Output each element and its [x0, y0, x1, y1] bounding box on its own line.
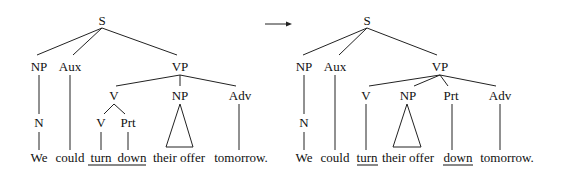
word-their-offer: their offer: [382, 150, 435, 165]
np-triangle: [393, 104, 421, 147]
node-VP: VP: [432, 59, 449, 74]
node-NP-subject: NP: [296, 59, 313, 74]
branch-VP-Adv: [180, 75, 236, 86]
branch-S-VP: [102, 28, 177, 55]
word-down: down: [118, 150, 147, 165]
node-N: N: [34, 115, 44, 130]
node-NP-object: NP: [172, 88, 189, 103]
node-Prt: Prt: [443, 88, 459, 103]
branch-VP-Adv: [440, 75, 496, 86]
node-Aux: Aux: [59, 59, 82, 74]
node-NP-object: NP: [400, 88, 417, 103]
word-tomorrow: tomorrow.: [214, 150, 268, 165]
branch-S-Aux: [339, 28, 367, 55]
node-NP-subject: NP: [31, 59, 48, 74]
word-could: could: [321, 150, 350, 165]
word-we: We: [31, 150, 48, 165]
tree-before: S NP Aux VP V NP Adv N V Prt We could tu…: [31, 13, 268, 165]
branch-V-V: [104, 104, 114, 114]
word-down: down: [444, 150, 473, 165]
node-V-complex: V: [109, 88, 119, 103]
node-Aux: Aux: [324, 59, 347, 74]
node-Adv: Adv: [489, 88, 512, 103]
node-Adv: Adv: [229, 88, 252, 103]
node-S: S: [98, 13, 105, 28]
branch-VP-V: [116, 75, 180, 86]
word-we: We: [296, 150, 313, 165]
word-tomorrow: tomorrow.: [480, 150, 534, 165]
transformation-arrow: [265, 22, 292, 27]
node-Prt: Prt: [120, 115, 136, 130]
branch-V-Prt: [114, 104, 125, 114]
node-V: V: [96, 115, 106, 130]
node-N: N: [299, 115, 309, 130]
arrow-head: [286, 22, 292, 27]
branch-S-VP: [367, 28, 437, 55]
word-could: could: [56, 150, 85, 165]
branch-S-Aux: [73, 28, 102, 55]
word-turn: turn: [357, 150, 378, 165]
word-turn: turn: [91, 150, 112, 165]
word-their-offer: their offer: [153, 150, 206, 165]
node-V: V: [361, 88, 371, 103]
tree-after: S NP Aux VP V NP Prt Adv N We could turn…: [296, 13, 534, 165]
np-triangle: [166, 104, 193, 147]
node-S: S: [363, 13, 370, 28]
syntax-tree-diagram: S NP Aux VP V NP Adv N V Prt We could tu…: [0, 0, 563, 180]
branch-VP-V: [369, 75, 440, 86]
branch-S-NP: [303, 28, 367, 55]
branch-S-NP: [37, 28, 102, 55]
node-VP: VP: [172, 59, 189, 74]
